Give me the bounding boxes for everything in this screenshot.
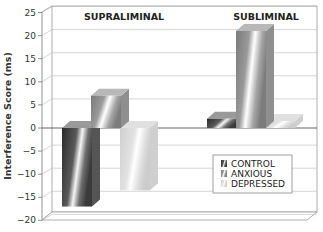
group-label-subliminal: SUBLIMINAL <box>233 11 299 22</box>
legend-label-anxious: ANXIOUS <box>231 169 272 179</box>
legend-swatch-depressed <box>221 180 227 187</box>
y-tick-label: −10 <box>17 169 36 179</box>
y-tick-label: 20 <box>25 31 37 41</box>
bar-anxious-subliminal <box>236 24 274 128</box>
y-axis-label: Interference Score (ms) <box>2 52 13 180</box>
y-tick-label: −15 <box>17 192 36 202</box>
y-tick-label: 10 <box>25 77 37 87</box>
legend-item-depressed: DEPRESSED <box>221 179 285 189</box>
legend-swatch-control <box>221 160 227 167</box>
bar-control-supraliminal <box>62 121 100 207</box>
y-axis: 2520151050−5−10−15−20 <box>17 8 42 226</box>
y-tick-label: 15 <box>25 54 36 64</box>
y-tick-label: −20 <box>17 215 36 225</box>
legend: CONTROL ANXIOUS DEPRESSED <box>213 155 292 193</box>
legend-label-control: CONTROL <box>231 159 275 169</box>
y-tick-label: 25 <box>25 8 36 18</box>
truncated-caption <box>100 229 270 232</box>
y-tick-label: 5 <box>30 100 36 110</box>
y-tick-label: −5 <box>23 146 36 156</box>
y-tick-label: 0 <box>30 123 36 133</box>
group-label-supraliminal: SUPRALIMINAL <box>84 11 164 22</box>
bar-depressed-supraliminal <box>120 121 158 190</box>
bar-anxious-supraliminal <box>91 89 129 128</box>
legend-swatch-anxious <box>221 170 227 177</box>
interference-score-chart: 2520151050−5−10−15−20 SUPRALIMINAL SUBLI… <box>0 0 323 232</box>
legend-label-depressed: DEPRESSED <box>231 179 285 189</box>
